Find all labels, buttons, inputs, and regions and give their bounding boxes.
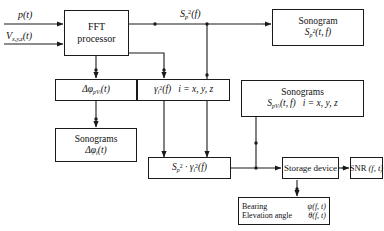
- sonograms-spv-row: SpVi(t, f) i = x, y, z: [267, 98, 337, 110]
- junction-dot-snr: [342, 166, 345, 169]
- gamma-row: γi2(f) i = x, y, z: [154, 84, 213, 96]
- sonograms-dphi-formula: Δφi(t): [85, 145, 106, 157]
- delta-phi-pv-formula: ΔφpVi(t): [82, 84, 110, 96]
- junction-dot-gamma: [162, 68, 165, 71]
- block-sonograms-delta-phi[interactable]: Sonograms Δφi(t): [55, 128, 137, 162]
- block-gamma-squared[interactable]: γi2(f) i = x, y, z: [137, 79, 230, 101]
- junction-dot-sp2-mid: [205, 73, 208, 76]
- sonograms-dphi-title: Sonograms: [75, 134, 118, 145]
- wire-fft-to-gamma: [129, 53, 164, 78]
- junction-dot-storage-in: [254, 166, 257, 169]
- junction-dot-sp2-drop: [205, 22, 208, 25]
- junction-dot-dphi2: [94, 117, 97, 120]
- bearing-row: Bearing ψ(f, t): [242, 202, 326, 211]
- junction-dot-bearing: [295, 187, 298, 190]
- elevation-formula: θ(f, t): [308, 211, 326, 220]
- label-input-velocity: Vx,y,z(t): [6, 30, 32, 42]
- block-sp2-gamma-product[interactable]: Sp2 · γi2(f): [148, 157, 231, 179]
- elevation-label: Elevation angle: [242, 211, 292, 220]
- storage-device-label: Storage device: [284, 163, 337, 174]
- junction-dot-dphi: [94, 68, 97, 71]
- fft-line-1: FFT: [88, 21, 105, 33]
- sonogram-sp2-formula: Sp2(t, f): [305, 27, 332, 39]
- elevation-row: Elevation angle θ(f, t): [242, 211, 326, 220]
- block-fft-processor[interactable]: FFT processor: [64, 10, 129, 56]
- bearing-formula: ψ(f, t): [307, 202, 326, 211]
- block-delta-phi-pv[interactable]: ΔφpVi(t): [55, 79, 137, 101]
- sonogram-sp2-title: Sonogram: [298, 16, 337, 27]
- fft-line-2: processor: [77, 33, 115, 45]
- gamma-index: i = x, y, z: [178, 84, 213, 95]
- bearing-label: Bearing: [242, 202, 267, 211]
- block-snr[interactable]: SNR (f, t): [350, 157, 383, 179]
- snr-label: SNR (f, t): [350, 163, 383, 173]
- sonograms-spv-title: Sonograms: [281, 87, 324, 98]
- junction-dot-sp2: [153, 22, 156, 25]
- gamma-formula: γi2(f): [154, 84, 171, 96]
- sonograms-spv-index: i = x, y, z: [303, 98, 338, 109]
- block-bearing-elevation[interactable]: Bearing ψ(f, t) Elevation angle θ(f, t): [238, 197, 330, 225]
- sonograms-spv-formula: SpVi(t, f): [267, 98, 295, 110]
- block-storage-device[interactable]: Storage device: [282, 157, 339, 179]
- block-diagram: p(t) Vx,y,z(t) Sp2(f) FFT processor Sono…: [0, 0, 384, 231]
- block-sonogram-sp2[interactable]: Sonogram Sp2(t, f): [272, 9, 364, 46]
- junction-dot-spv: [254, 141, 257, 144]
- block-sonograms-spv[interactable]: Sonograms SpVi(t, f) i = x, y, z: [241, 80, 364, 117]
- label-signal-sp2f: Sp2(f): [180, 8, 201, 20]
- label-input-pressure: p(t): [18, 9, 32, 20]
- sp2-gamma-formula: Sp2 · γi2(f): [172, 162, 207, 174]
